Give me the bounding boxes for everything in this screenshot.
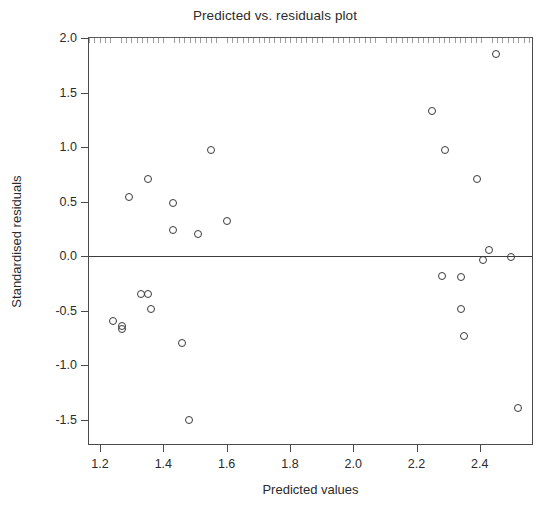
- data-point: [428, 107, 436, 115]
- data-point: [169, 199, 177, 207]
- data-point: [125, 193, 133, 201]
- y-axis-tick-label: 0.0: [60, 249, 77, 263]
- y-axis-tick: [81, 38, 89, 39]
- data-point: [492, 50, 500, 58]
- data-point: [144, 290, 152, 298]
- top-edge-rug: [89, 38, 532, 43]
- data-point: [185, 416, 193, 424]
- x-axis-tick: [290, 444, 291, 452]
- x-axis-title: Predicted values: [88, 482, 533, 497]
- x-axis-tick: [163, 444, 164, 452]
- y-axis-tick-label: 2.0: [60, 31, 77, 45]
- data-point: [473, 175, 481, 183]
- data-point: [460, 332, 468, 340]
- x-axis-tick-label: 2.0: [345, 457, 362, 471]
- data-point: [118, 325, 126, 333]
- x-axis-tick-label: 1.2: [91, 457, 108, 471]
- x-axis-tick-label: 1.8: [281, 457, 298, 471]
- y-axis-tick-label: -1.5: [55, 413, 77, 427]
- y-axis-tick: [81, 147, 89, 148]
- y-axis-tick: [81, 256, 89, 257]
- x-axis-tick: [417, 444, 418, 452]
- y-axis-title-text: Standardised residuals: [9, 175, 24, 307]
- chart-root: Predicted vs. residuals plot 2.01.51.00.…: [0, 0, 550, 515]
- y-axis-tick-label: 1.5: [60, 86, 77, 100]
- y-axis-tick: [81, 420, 89, 421]
- data-point: [144, 175, 152, 183]
- data-point: [194, 230, 202, 238]
- data-point: [457, 273, 465, 281]
- y-axis-tick: [81, 93, 89, 94]
- y-axis-tick-label: 0.5: [60, 195, 77, 209]
- y-axis-tick: [81, 311, 89, 312]
- data-point: [109, 317, 117, 325]
- zero-reference-line: [89, 256, 532, 257]
- data-point: [485, 246, 493, 254]
- plot-area: 2.01.51.00.50.0-0.5-1.0-1.5 1.21.41.61.8…: [88, 37, 533, 445]
- data-point: [223, 217, 231, 225]
- data-point: [479, 256, 487, 264]
- x-axis-tick-label: 1.4: [155, 457, 172, 471]
- data-point: [457, 305, 465, 313]
- y-axis-tick-label: -0.5: [55, 304, 77, 318]
- x-axis-tick: [353, 444, 354, 452]
- data-point: [169, 226, 177, 234]
- data-point: [507, 253, 515, 261]
- data-point: [438, 272, 446, 280]
- x-axis-tick: [227, 444, 228, 452]
- y-axis-tick-label: -1.0: [55, 358, 77, 372]
- y-axis-title: Standardised residuals: [8, 37, 24, 445]
- y-axis-tick-label: 1.0: [60, 140, 77, 154]
- x-axis-tick-label: 1.6: [218, 457, 235, 471]
- data-point: [441, 146, 449, 154]
- x-axis-tick: [480, 444, 481, 452]
- data-point: [147, 305, 155, 313]
- x-axis-tick-label: 2.2: [408, 457, 425, 471]
- y-axis-tick: [81, 365, 89, 366]
- data-point: [514, 404, 522, 412]
- x-axis-tick-label: 2.4: [471, 457, 488, 471]
- chart-title: Predicted vs. residuals plot: [0, 8, 550, 23]
- y-axis-tick: [81, 202, 89, 203]
- x-axis-tick: [100, 444, 101, 452]
- data-point: [178, 339, 186, 347]
- data-point: [207, 146, 215, 154]
